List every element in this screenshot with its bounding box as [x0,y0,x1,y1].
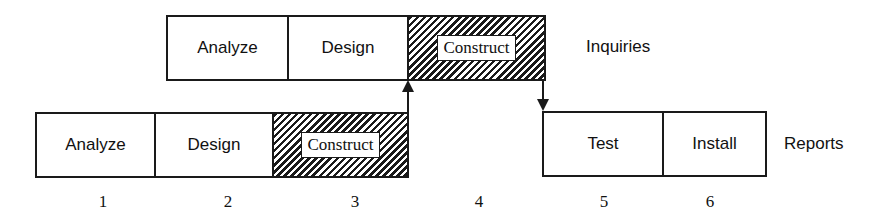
phase-label: Analyze [197,38,257,58]
arrow-down-icon [537,99,549,111]
period-4: 4 [469,192,489,212]
reports-install-phase: Install [662,111,767,177]
row-label-reports: Reports [784,134,844,154]
reports-design-phase: Design [154,112,274,178]
phase-label: Design [322,38,375,58]
period-5: 5 [594,192,614,212]
phase-label: Analyze [65,135,125,155]
phase-label: Install [692,134,736,154]
reports-analyze-phase: Analyze [35,112,156,178]
phase-label: Construct [301,132,379,158]
inquiries-construct-phase: Construct [407,15,546,81]
period-1: 1 [93,192,113,212]
row-label-inquiries: Inquiries [586,37,650,57]
phase-label: Design [188,135,241,155]
phase-label: Construct [437,35,515,61]
reports-test-phase: Test [542,111,664,177]
period-3: 3 [345,192,365,212]
period-2: 2 [218,192,238,212]
inquiries-analyze-phase: Analyze [166,15,289,81]
phase-label: Test [587,134,618,154]
arrow-up-icon [402,80,414,92]
period-6: 6 [700,192,720,212]
reports-construct-phase: Construct [272,112,409,178]
inquiries-design-phase: Design [287,15,409,81]
